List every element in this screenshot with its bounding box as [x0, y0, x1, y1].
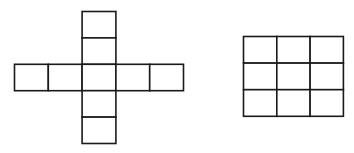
- cross-net-figure: [15, 12, 184, 144]
- grid-cell: [277, 90, 310, 117]
- grid-cell: [310, 63, 343, 90]
- cross-cell: [48, 64, 82, 90]
- cross-cell: [82, 117, 116, 143]
- grid-cell: [244, 37, 277, 64]
- cross-cell: [82, 38, 116, 64]
- cross-cell: [82, 64, 116, 90]
- square-grid-figure: [244, 37, 344, 117]
- cross-cell: [15, 64, 49, 90]
- cross-cell: [116, 64, 150, 90]
- grid-cell: [277, 37, 310, 64]
- diagram-canvas: [0, 0, 354, 153]
- grid-cell: [244, 63, 277, 90]
- grid-cell: [244, 90, 277, 117]
- grid-cell: [310, 90, 343, 117]
- cross-cell: [82, 12, 116, 38]
- grid-cell: [277, 63, 310, 90]
- cross-cell: [82, 91, 116, 117]
- cross-cell: [150, 64, 184, 90]
- grid-cell: [310, 37, 343, 64]
